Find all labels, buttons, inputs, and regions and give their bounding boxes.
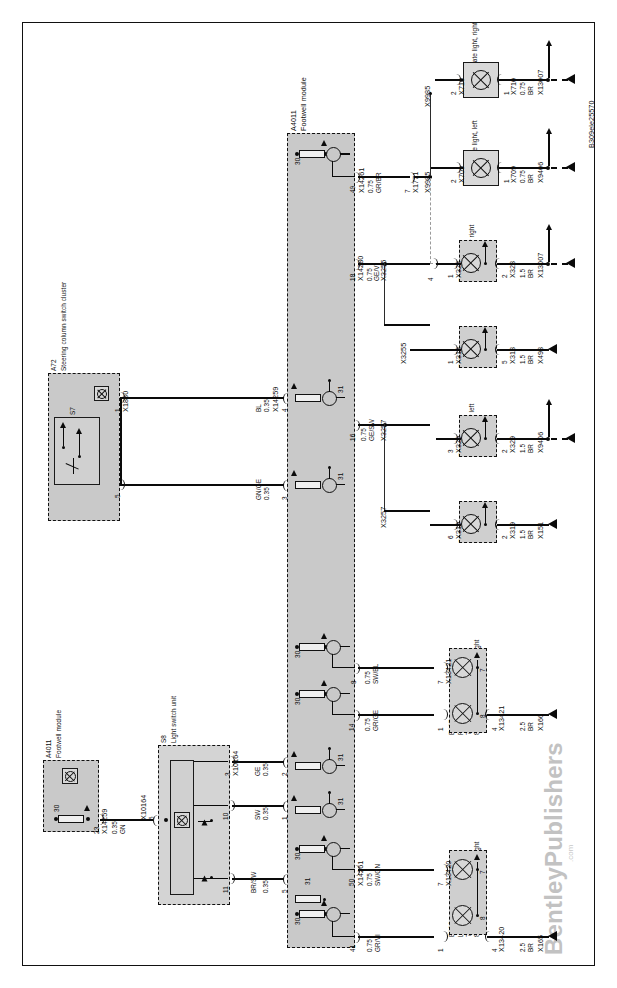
headlight-e127-lamp-8 [452, 703, 473, 724]
pin-8: 8 [350, 680, 357, 684]
lamp-e81-symbol [461, 253, 481, 273]
lamp-e43a-symbol [471, 158, 491, 178]
headlight-e126-in-connector-a: X13420 [445, 861, 453, 886]
lamp-e43a-out-connector: X709 [510, 166, 518, 183]
footwell-module-small-name: Footwell module [55, 710, 62, 758]
headlight-e126-color: BR [527, 943, 534, 952]
headlight-e127-color: BR [527, 722, 534, 731]
lamp-e47a-out-connector: X318 [509, 347, 517, 364]
lamp-e46a-color: BR [527, 530, 534, 539]
splice-x9985-upper: X9985 [424, 86, 432, 107]
color-16: GE/SW [368, 419, 375, 441]
pin-16: 16 [349, 434, 356, 441]
lamp-e44a-gauge: 0.75 [519, 82, 526, 95]
lamp-e47a-symbol [461, 339, 481, 359]
color-4: BL [255, 404, 262, 412]
terminal-31-2: 31 [337, 473, 344, 480]
lamp-e44a-out-connector: X710 [510, 78, 518, 95]
lamp-e44a-symbol [471, 70, 491, 90]
gauge-3: 0.35 [263, 487, 270, 500]
lamp-e80-ground: X9406 [537, 432, 545, 453]
light-switch-name: Light switch unit [170, 696, 177, 743]
x3255-pin: 4 [427, 277, 434, 281]
headlight-e126-ground: X165 [537, 935, 545, 952]
terminal-30-4: 30 [294, 853, 301, 860]
terminal-30-1: 30 [294, 158, 301, 165]
pin-50: 50 [348, 879, 355, 886]
terminal-31-3: 31 [337, 754, 344, 761]
lamp-e47a-gauge: 1.5 [519, 355, 526, 364]
terminal-31-4: 31 [337, 798, 344, 805]
ground-arrow-e44a [546, 40, 552, 46]
document-reference-code: B309ele25570 [588, 100, 596, 148]
steering-column-switch-id: S7 [69, 407, 76, 415]
pin-14: 14 [348, 724, 355, 731]
gauge-2: 0.35 [262, 763, 269, 776]
wiring-diagram-page: B309ele25570 BentleyPublishers .com A401… [0, 0, 617, 988]
lamp-e47a-color: BR [527, 355, 534, 364]
connector-x14280: X14280 [357, 256, 365, 281]
ground-arrow-e80 [546, 399, 552, 405]
pin-3: 3 [281, 496, 288, 500]
terminal-31-1: 31 [337, 386, 344, 393]
lamp-e80-out-connector: X329 [509, 436, 517, 453]
lamp-e43a-gauge: 0.75 [519, 170, 526, 183]
color-1: SW [254, 810, 261, 821]
lamp-e81-ground: X13007 [537, 253, 545, 278]
headlight-e126-gauge: 2.5 [519, 943, 526, 952]
headlight-e127-out-connector: X13421 [498, 706, 506, 731]
steering-connector-x1880: X1880 [122, 391, 130, 412]
footwell-module-main[interactable] [287, 133, 355, 948]
lamp-e44a-ground: X13007 [537, 70, 545, 95]
gauge-14: 0.75 [364, 718, 371, 731]
lamp-e81-color: BR [527, 269, 534, 278]
footwell-small-gauge: 0.35 [111, 821, 118, 834]
lamp-e44a-color: BR [527, 86, 534, 95]
footwell-small-connector-x14259: X14259 [101, 809, 109, 834]
footwell-module-small-id: A4011 [45, 739, 52, 758]
terminal-30-3: 30 [294, 698, 301, 705]
lamp-e46a-ground: X151 [537, 522, 545, 539]
footwell-small-terminal-30: 30 [53, 805, 60, 812]
gauge-1: 0.35 [262, 807, 269, 820]
headlight-e127-lamp-a-num: 7 [479, 668, 486, 672]
lamp-e80-gauge: 1.5 [519, 444, 526, 453]
lamp-e43a-color: BR [527, 174, 534, 183]
lamp-e47a-ground: X498 [537, 347, 545, 364]
lamp-e80-color: BR [527, 444, 534, 453]
headlight-e126-in-pin-b: 1 [437, 948, 444, 952]
color-50: SW/GN [374, 864, 381, 886]
pin-49: 49 [349, 186, 356, 193]
footwell-small-color: GN [119, 824, 126, 834]
lamp-e43a-ground: X9406 [537, 162, 545, 183]
gauge-49: 0.75 [367, 180, 374, 193]
headlight-e126-lamp-a-num: 7 [479, 870, 486, 874]
ground-arrow-e43a [546, 128, 552, 134]
terminal-31-5: 31 [304, 878, 311, 885]
gauge-16: 0.75 [360, 428, 367, 441]
connector-x14261-b: X14261 [357, 861, 365, 886]
headlight-e126-lamp-8 [452, 905, 473, 926]
pin-1: 1 [281, 816, 288, 820]
connector-x14259-a: X14259 [272, 387, 280, 412]
connector-x14261-a: X14261 [358, 168, 366, 193]
light-switch-supply-connector: X10164 [140, 795, 148, 820]
lamp-e46a-gauge: 1.5 [519, 530, 526, 539]
color-2: GE [254, 767, 261, 776]
light-switch-unit[interactable] [158, 745, 230, 905]
terminal-30-5: 30 [294, 918, 301, 925]
splice-x3257-lower: X3257 [380, 507, 388, 528]
splice-x1771: X1771 [412, 172, 420, 193]
publisher-watermark-suffix: .com [566, 845, 575, 862]
steering-column-name: Steering column switch cluster [60, 282, 67, 371]
ground-arrow-e81 [546, 224, 552, 230]
headlight-e127-gauge: 2.5 [519, 722, 526, 731]
color-3: GN/GE [255, 479, 262, 500]
headlight-e127-in-connector-a: X13421 [445, 659, 453, 684]
light-switch-pin-11: 11 [222, 886, 229, 893]
light-switch-connector-x10164: X10164 [232, 751, 240, 776]
publisher-watermark: BentleyPublishers [540, 742, 568, 955]
lamp-e81-gauge: 1.5 [519, 269, 526, 278]
footwell-module-main-id: A4011 [290, 110, 298, 131]
footwell-module-main-name: Footwell module [300, 77, 308, 131]
